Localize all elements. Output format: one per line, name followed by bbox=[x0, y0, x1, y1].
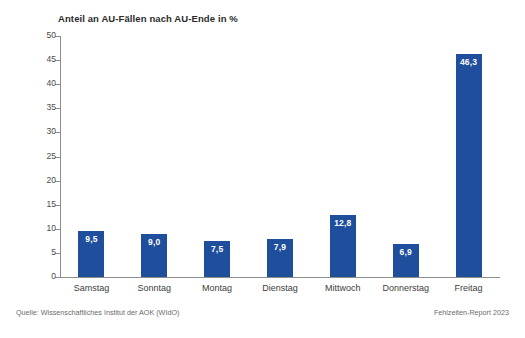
bar-value-label: 9,0 bbox=[141, 237, 167, 247]
plot-area: 50454035302520151050 9,5Samstag9,0Sonnta… bbox=[60, 36, 500, 277]
y-tick-label: 20 bbox=[34, 175, 56, 185]
y-tick-label: 0 bbox=[34, 271, 56, 281]
y-tick-label: 5 bbox=[34, 247, 56, 257]
x-axis-category-label: Montag bbox=[202, 283, 232, 293]
x-axis-category-label: Samstag bbox=[74, 283, 110, 293]
x-axis-line bbox=[60, 277, 500, 278]
bar-group[interactable]: 9,5Samstag bbox=[60, 36, 123, 277]
y-tick-label: 35 bbox=[34, 102, 56, 112]
x-axis-category-label: Donnerstag bbox=[382, 283, 429, 293]
bar[interactable]: 9,5 bbox=[78, 231, 104, 277]
chart-figure: Anteil an AU-Fällen nach AU-Ende in % 50… bbox=[0, 0, 525, 338]
bar-value-label: 46,3 bbox=[456, 57, 482, 67]
x-axis-category-label: Freitag bbox=[455, 283, 483, 293]
bar-value-label: 7,5 bbox=[204, 244, 230, 254]
y-tick-label: 15 bbox=[34, 199, 56, 209]
y-tick-label: 30 bbox=[34, 126, 56, 136]
bar-value-label: 12,8 bbox=[330, 218, 356, 228]
bar-value-label: 6,9 bbox=[393, 247, 419, 257]
y-tick-label: 10 bbox=[34, 223, 56, 233]
bar[interactable]: 12,8 bbox=[330, 215, 356, 277]
bar-value-label: 9,5 bbox=[78, 234, 104, 244]
y-tick-label: 25 bbox=[34, 151, 56, 161]
y-tick-label: 40 bbox=[34, 78, 56, 88]
bar-group[interactable]: 7,5Montag bbox=[186, 36, 249, 277]
bar-group[interactable]: 7,9Dienstag bbox=[249, 36, 312, 277]
bar-group[interactable]: 6,9Donnerstag bbox=[374, 36, 437, 277]
bar-group[interactable]: 12,8Mittwoch bbox=[311, 36, 374, 277]
x-axis-category-label: Sonntag bbox=[138, 283, 172, 293]
y-tick-label: 50 bbox=[34, 30, 56, 40]
bar-group[interactable]: 9,0Sonntag bbox=[123, 36, 186, 277]
report-note: Fehlzeiten-Report 2023 bbox=[434, 308, 509, 317]
chart-title: Anteil an AU-Fällen nach AU-Ende in % bbox=[58, 13, 238, 24]
bar[interactable]: 7,9 bbox=[267, 239, 293, 277]
bar[interactable]: 6,9 bbox=[393, 244, 419, 277]
bar[interactable]: 7,5 bbox=[204, 241, 230, 277]
bar-group[interactable]: 46,3Freitag bbox=[437, 36, 500, 277]
x-axis-category-label: Dienstag bbox=[262, 283, 298, 293]
source-note: Quelle: Wissenschaftliches Institut der … bbox=[16, 308, 179, 317]
y-tick-label: 45 bbox=[34, 54, 56, 64]
bar[interactable]: 46,3 bbox=[456, 54, 482, 277]
x-axis-category-label: Mittwoch bbox=[325, 283, 361, 293]
bar-value-label: 7,9 bbox=[267, 242, 293, 252]
bar[interactable]: 9,0 bbox=[141, 234, 167, 277]
